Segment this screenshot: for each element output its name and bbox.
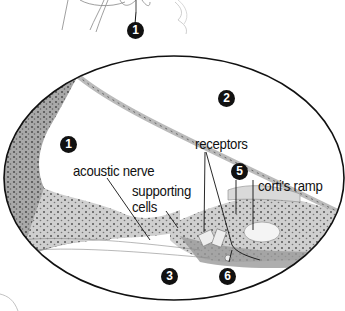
inner-ear-sketch (62, 0, 187, 34)
badge-marker-6: 6 (219, 268, 236, 285)
label-supporting: supporting (132, 183, 191, 198)
label-acoustic-nerve: acoustic nerve (73, 163, 154, 178)
badge-marker-5: 5 (231, 163, 248, 180)
label-receptors: receptors (195, 136, 248, 151)
badge-chamber-3: 3 (161, 268, 178, 285)
label-cortis-ramp: corti's ramp (258, 178, 323, 193)
badge-top-1: 1 (127, 22, 144, 39)
badge-chamber-2: 2 (218, 90, 235, 107)
badge-chamber-1: 1 (60, 136, 77, 153)
cochlea-tissue (0, 72, 345, 270)
label-cells: cells (132, 199, 157, 214)
cochlea-diagram: 1 2 1 5 3 6 receptors acoustic nerve cor… (0, 0, 345, 311)
